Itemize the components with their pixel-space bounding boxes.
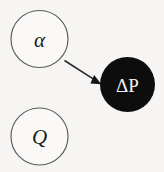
arrowhead-icon xyxy=(90,75,101,84)
edge-line-alpha-to-delta-p xyxy=(65,61,96,81)
causal-diagram: α ΔP Q xyxy=(0,0,164,172)
node-alpha[interactable]: α xyxy=(11,11,68,68)
node-delta-p-label: ΔP xyxy=(116,75,139,96)
edge-alpha-to-delta-p xyxy=(65,61,102,85)
node-alpha-label: α xyxy=(34,28,46,52)
node-delta-p[interactable]: ΔP xyxy=(100,57,155,112)
node-q[interactable]: Q xyxy=(11,108,68,165)
node-q-label: Q xyxy=(32,125,47,149)
diagram-canvas: α ΔP Q xyxy=(0,0,164,172)
